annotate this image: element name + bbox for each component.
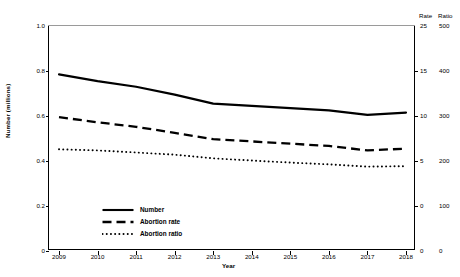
ratio-tick-label: 100 [439, 203, 457, 209]
y-tick-label: 0.8 [36, 68, 45, 74]
rate-tick-label: 15 [420, 68, 433, 74]
chart-legend: NumberAbortion rateAbortion ratio [102, 204, 182, 240]
y-tick-label: 0 [42, 248, 45, 254]
x-axis-label: Year [222, 262, 235, 269]
y-tick-label: 0.6 [36, 113, 45, 119]
ratio-tick-label: 200 [439, 158, 457, 164]
legend-label: Number [140, 207, 164, 213]
legend-item: Number [102, 204, 182, 216]
rate-tick-label: 25 [420, 23, 433, 29]
ratio-axis-header: Ratio [438, 12, 452, 19]
y-tick-mark [46, 161, 50, 162]
legend-line-swatch [102, 206, 134, 214]
rate-tick-label: 0 [420, 203, 433, 209]
legend-label: Abortion rate [140, 219, 180, 225]
x-tick-mark [98, 251, 99, 255]
y-tick-mark [46, 206, 50, 207]
plot-area: 00.20.40.60.81.0 20092010201120122013201… [48, 25, 415, 250]
series-number-line [59, 74, 406, 114]
rate-tick-mark [414, 206, 418, 207]
chart-figure: Rate Ratio Number (millions) Year 00.20.… [0, 0, 460, 277]
rate-tick-label: 10 [420, 113, 433, 119]
legend-label: Abortion ratio [140, 231, 182, 237]
y-tick-mark [46, 116, 50, 117]
rate-tick-mark [414, 161, 418, 162]
legend-line-swatch [102, 230, 134, 238]
x-tick-mark [213, 251, 214, 255]
ratio-tick-label: 500 [439, 23, 457, 29]
x-tick-mark [136, 251, 137, 255]
ratio-tick-label: 0 [439, 248, 457, 254]
y-tick-label: 0.4 [36, 158, 45, 164]
x-tick-mark [290, 251, 291, 255]
y-axis-label: Number (millions) [4, 84, 11, 138]
legend-item: Abortion rate [102, 216, 182, 228]
rate-axis-header: Rate [419, 12, 432, 19]
y-tick-label: 1.0 [36, 23, 45, 29]
rate-tick-mark [414, 116, 418, 117]
x-tick-mark [406, 251, 407, 255]
x-tick-mark [329, 251, 330, 255]
y-tick-mark [46, 71, 50, 72]
series-abortion-ratio-line [59, 149, 406, 166]
legend-line-swatch [102, 218, 134, 226]
y-tick-label: 0.2 [36, 203, 45, 209]
y-tick-mark [46, 251, 50, 252]
rate-tick-label: 5 [420, 158, 433, 164]
x-tick-mark [367, 251, 368, 255]
ratio-tick-label: 300 [439, 113, 457, 119]
rate-tick-mark [414, 71, 418, 72]
rate-tick-label: 0 [420, 248, 433, 254]
ratio-tick-label: 400 [439, 68, 457, 74]
series-abortion-rate-line [59, 117, 406, 150]
x-tick-mark [59, 251, 60, 255]
legend-item: Abortion ratio [102, 228, 182, 240]
x-tick-mark [252, 251, 253, 255]
x-tick-mark [175, 251, 176, 255]
